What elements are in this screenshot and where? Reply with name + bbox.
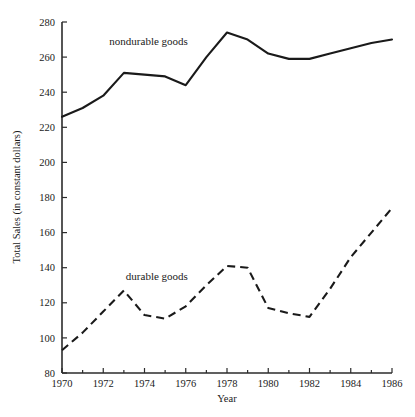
y-axis-tick-labels: 80100120140160180200220240260280: [39, 17, 55, 379]
x-tick-label: 1970: [52, 378, 73, 389]
y-tick-label: 260: [39, 52, 55, 63]
y-tick-label: 160: [39, 227, 55, 238]
y-tick-label: 120: [39, 297, 55, 308]
x-tick-label: 1976: [175, 378, 196, 389]
x-tick-label: 1982: [299, 378, 320, 389]
y-tick-label: 200: [39, 157, 55, 168]
x-tick-label: 1980: [258, 378, 279, 389]
y-tick-label: 80: [45, 368, 56, 379]
x-axis-title: Year: [217, 393, 237, 404]
x-axis-tick-labels: 197019721974197619781980198219841986: [52, 378, 403, 389]
x-tick-label: 1972: [93, 378, 114, 389]
series-label-durable-goods: durable goods: [126, 270, 188, 282]
y-axis-title: Total Sales (in constant dollars): [11, 130, 23, 263]
series-label-nondurable-goods: nondurable goods: [109, 35, 188, 47]
y-tick-label: 220: [39, 122, 55, 133]
line-chart: 80100120140160180200220240260280 1970197…: [0, 0, 415, 417]
x-tick-label: 1974: [134, 378, 156, 389]
x-tick-label: 1978: [217, 378, 238, 389]
y-tick-label: 280: [39, 17, 55, 28]
y-tick-label: 100: [39, 333, 55, 344]
y-tick-label: 180: [39, 192, 55, 203]
series-line-durable-goods: [62, 208, 392, 350]
figure-container: 80100120140160180200220240260280 1970197…: [0, 0, 415, 417]
x-tick-label: 1986: [382, 378, 403, 389]
y-tick-label: 140: [39, 262, 55, 273]
y-tick-label: 240: [39, 87, 55, 98]
x-tick-label: 1984: [340, 378, 362, 389]
